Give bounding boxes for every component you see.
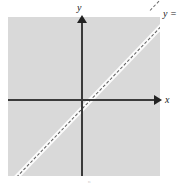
x-axis-arrowhead-icon xyxy=(154,95,162,105)
figure-caption-mark: n xyxy=(88,179,91,184)
y-axis-label: y xyxy=(77,3,81,13)
x-axis-label: x xyxy=(165,95,169,105)
identity-line-halo xyxy=(11,17,160,176)
line-equation-label: y = xyxy=(163,9,177,19)
identity-line-dashed xyxy=(13,17,160,176)
figure-canvas: y x y = n xyxy=(0,0,181,188)
x-axis xyxy=(8,99,158,101)
identity-line-clip-region xyxy=(8,17,160,176)
y-axis xyxy=(81,21,83,176)
y-axis-arrowhead-icon xyxy=(77,15,87,23)
